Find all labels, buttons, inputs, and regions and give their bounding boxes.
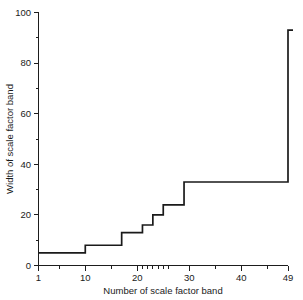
x-ticklabel-1: 1 — [36, 272, 41, 283]
x-ticklabel-10: 10 — [80, 272, 91, 283]
x-ticklabel-40: 40 — [236, 272, 247, 283]
y-ticklabel-0: 0 — [26, 260, 31, 271]
y-axis-title: Width of scale factor band — [4, 84, 15, 194]
x-ticklabel-30: 30 — [184, 272, 195, 283]
x-ticklabel-49: 49 — [283, 272, 294, 283]
y-ticklabel-100: 100 — [15, 7, 31, 18]
y-ticklabel-20: 20 — [20, 209, 31, 220]
y-ticklabel-40: 40 — [20, 159, 31, 170]
x-axis-title: Number of scale factor band — [103, 285, 222, 296]
y-ticklabel-60: 60 — [20, 108, 31, 119]
chart-background — [0, 0, 303, 300]
y-ticklabel-80: 80 — [20, 57, 31, 68]
chart-figure: 0 20 40 60 80 100 — [0, 0, 303, 300]
step-chart: 0 20 40 60 80 100 — [0, 0, 303, 300]
x-ticklabel-20: 20 — [132, 272, 143, 283]
